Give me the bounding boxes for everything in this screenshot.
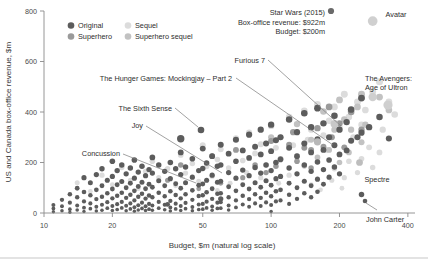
highlighted-data-point — [218, 196, 223, 201]
data-point — [294, 129, 300, 135]
data-point — [132, 205, 136, 209]
data-point — [204, 190, 209, 195]
sixth-sense-leader-line — [175, 108, 198, 127]
data-point — [326, 104, 333, 111]
data-point — [75, 195, 79, 199]
data-point — [264, 190, 269, 195]
data-point — [124, 204, 128, 208]
data-point — [258, 152, 264, 158]
highlighted-data-point — [368, 16, 378, 26]
data-point — [302, 162, 308, 168]
data-point — [286, 145, 292, 151]
data-point — [337, 152, 343, 158]
data-point — [342, 175, 347, 180]
data-point — [240, 182, 245, 187]
data-point — [88, 189, 93, 194]
data-point — [263, 141, 269, 147]
data-point — [150, 170, 155, 175]
data-point — [247, 197, 251, 201]
data-point — [139, 180, 144, 185]
data-point — [111, 209, 115, 213]
data-point — [216, 207, 220, 211]
data-point — [258, 175, 263, 180]
data-point — [269, 183, 274, 188]
data-point — [156, 190, 161, 195]
data-point — [190, 198, 194, 202]
data-point — [234, 198, 238, 202]
spectre-label: Spectre — [364, 175, 389, 184]
data-point — [201, 207, 205, 211]
concussion-label: Concussion — [82, 149, 120, 158]
annotation-star-wars: Star Wars (2015) Box-office revenue: $92… — [238, 8, 334, 36]
data-point — [252, 151, 258, 157]
data-point — [105, 200, 109, 204]
data-point — [386, 135, 392, 141]
data-point — [278, 187, 283, 192]
data-point — [263, 170, 268, 175]
plot-points-layer — [51, 16, 398, 214]
data-point — [354, 104, 361, 111]
data-point — [341, 91, 348, 98]
data-point — [120, 200, 124, 204]
y-tick-label: 0 — [33, 209, 37, 218]
data-point — [183, 170, 188, 175]
data-point — [241, 202, 245, 206]
data-point — [321, 147, 327, 153]
data-point — [168, 176, 173, 181]
data-point — [110, 174, 115, 179]
data-point — [234, 188, 239, 193]
data-point — [144, 209, 148, 213]
data-point — [294, 171, 299, 176]
data-point — [210, 208, 214, 212]
data-point — [119, 162, 125, 168]
data-point — [140, 201, 144, 205]
data-point — [119, 190, 124, 195]
data-point — [150, 185, 155, 190]
data-point — [287, 181, 292, 186]
data-point — [320, 108, 327, 115]
data-point — [326, 134, 332, 140]
data-point — [346, 158, 352, 164]
legend-label-superhero-sequel: Superhero sequel — [135, 32, 193, 41]
data-point — [94, 205, 98, 209]
data-point — [278, 157, 284, 163]
data-point — [82, 199, 86, 203]
data-point — [218, 179, 223, 184]
data-point — [294, 153, 300, 159]
data-point — [75, 186, 80, 191]
data-point — [376, 114, 383, 121]
data-point — [68, 207, 72, 211]
data-point — [94, 187, 99, 192]
highlighted-data-point — [165, 202, 170, 207]
data-point — [200, 146, 206, 152]
data-point — [314, 105, 321, 112]
data-point — [197, 208, 201, 212]
data-point — [321, 167, 326, 172]
data-point — [178, 149, 184, 155]
data-point — [173, 193, 178, 198]
data-point — [336, 96, 343, 103]
data-point — [259, 204, 263, 208]
data-point — [287, 173, 292, 178]
data-point — [178, 186, 183, 191]
data-point — [110, 182, 115, 187]
data-point — [240, 167, 245, 172]
data-point — [264, 200, 268, 204]
data-point — [115, 202, 119, 206]
data-point — [337, 160, 343, 166]
data-point — [190, 205, 194, 209]
data-point — [136, 208, 140, 212]
data-point — [331, 142, 337, 148]
legend: Original Sequel Superhero Superhero sequ… — [68, 21, 193, 41]
avengers-label-line2: Age of Ultron — [365, 83, 408, 92]
legend-swatch-superhero — [68, 33, 75, 40]
data-point — [276, 181, 281, 186]
data-point — [184, 207, 188, 211]
annotation-john-carter: John Carter — [363, 199, 405, 224]
data-point — [143, 173, 148, 178]
data-point — [88, 193, 93, 198]
x-axis: 102050100200400 Budget, $m (natural log … — [40, 213, 415, 250]
data-point — [100, 208, 104, 212]
data-point — [190, 175, 195, 180]
data-point — [88, 201, 92, 205]
